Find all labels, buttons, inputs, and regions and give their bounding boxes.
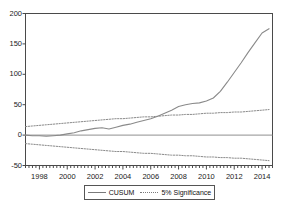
legend-label-significance: 5% Significance	[161, 189, 211, 196]
x-tick-label: 2012	[221, 172, 247, 181]
x-tick-label: 2014	[249, 172, 275, 181]
y-tick-label: -50	[0, 161, 22, 170]
y-tick-label: 150	[0, 39, 22, 48]
x-tick-label: 1998	[26, 172, 52, 181]
chart-legend: CUSUM 5% Significance	[84, 185, 215, 200]
legend-item-cusum: CUSUM	[88, 189, 135, 196]
series-significance-lower	[26, 144, 270, 161]
x-tick-label: 2008	[166, 172, 192, 181]
series-cusum	[26, 29, 270, 137]
series-significance-upper	[26, 110, 270, 127]
legend-line-dotted-icon	[140, 192, 158, 193]
y-tick-label: 100	[0, 69, 22, 78]
y-tick-label: 50	[0, 100, 22, 109]
legend-label-cusum: CUSUM	[109, 189, 135, 196]
legend-item-significance: 5% Significance	[140, 189, 211, 196]
x-tick-label: 2006	[138, 172, 164, 181]
legend-line-solid-icon	[88, 192, 106, 193]
cusum-chart: 200150100500-50 199820002002200420062008…	[0, 0, 284, 207]
y-tick-label: 0	[0, 130, 22, 139]
x-tick-label: 2004	[110, 172, 136, 181]
x-tick-label: 2010	[193, 172, 219, 181]
x-tick-label: 2000	[54, 172, 80, 181]
x-tick-label: 2002	[82, 172, 108, 181]
y-tick-label: 200	[0, 9, 22, 18]
